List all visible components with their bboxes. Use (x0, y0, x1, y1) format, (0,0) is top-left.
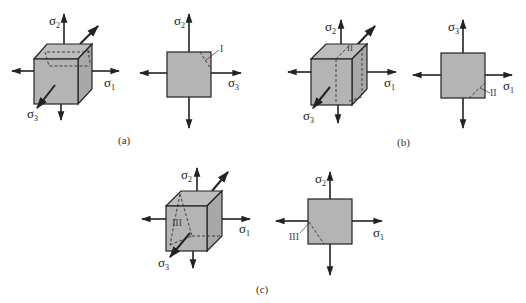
caption-a: (a) (118, 135, 130, 146)
square-a (140, 14, 241, 128)
sigma3-back-arrow (80, 26, 98, 44)
cube-b-sigma3-label: σ3 (303, 109, 314, 125)
square-c-plane-label: III (289, 232, 299, 242)
caption-c: (c) (256, 284, 268, 295)
square-b-sigma1-label: σ1 (503, 79, 514, 95)
square-b (413, 20, 512, 128)
cube-a (12, 14, 119, 120)
square-b-sigma3-label: σ3 (448, 20, 459, 36)
cube-c-sigma1-label: σ1 (239, 222, 250, 238)
square-c (276, 172, 382, 275)
cube-a-sigma1-label: σ1 (104, 76, 115, 92)
square-face (167, 52, 211, 97)
cube-b-plane-label: II (347, 44, 353, 53)
cube-c-plane-label: III (172, 218, 182, 228)
square-a-plane-label: I (220, 44, 223, 54)
stress-diagram-canvas (0, 0, 526, 303)
cube-c-sigma3-label: σ3 (158, 256, 169, 272)
cube-c-sigma2-label: σ2 (181, 168, 192, 184)
cube-a-sigma3-label: σ3 (27, 107, 38, 123)
caption-b: (b) (397, 137, 410, 148)
square-a-sigma2-label: σ2 (174, 14, 185, 30)
square-b-plane-label: II (490, 88, 497, 98)
cube-b-sigma2-label: σ2 (325, 20, 336, 36)
square-c-sigma2-label: σ2 (315, 172, 326, 188)
cube-c (142, 168, 250, 268)
square-a-sigma3-label: σ3 (228, 76, 239, 92)
cube-b-sigma1-label: σ1 (384, 76, 395, 92)
square-c-sigma1-label: σ1 (373, 226, 384, 242)
cube-a-sigma2-label: σ2 (49, 14, 60, 30)
